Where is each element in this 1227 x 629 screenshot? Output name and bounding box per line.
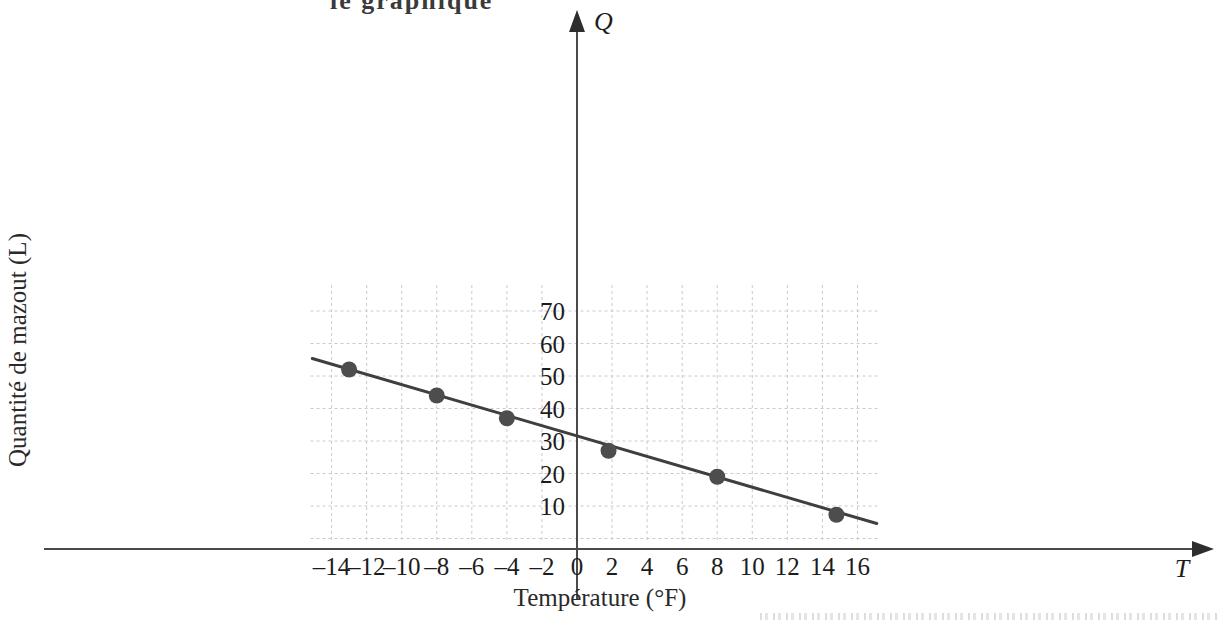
data-point [499,410,515,426]
y-tick-label: 20 [540,461,565,488]
x-tick-label: 2 [606,553,619,580]
data-point [429,388,445,404]
x-tick-label: 0 [571,553,584,580]
y-axis-caption: Quantité de mazout (L) [4,233,32,467]
chart-canvas: le graphique –14–12–10–8–6–4–20246810121… [0,0,1227,629]
scatter-plot-svg: –14–12–10–8–6–4–202468101214161020304050… [0,0,1227,629]
data-point [828,507,844,523]
x-tick-label: 14 [810,553,836,580]
x-axis-arrowhead [1192,541,1214,557]
x-tick-label: –8 [423,553,449,580]
x-tick-label: –4 [493,553,520,580]
x-axis-caption: Température (°F) [514,584,687,612]
x-tick-label: 8 [711,553,724,580]
x-tick-label: –10 [382,553,421,580]
x-tick-label: –14 [312,553,351,580]
data-point [341,362,357,378]
y-axis-arrowhead [569,10,585,32]
data-point [601,443,617,459]
gridlines-group [311,285,881,542]
data-points-group [341,362,844,523]
y-tick-label: 70 [540,298,565,325]
x-tick-label: –2 [528,553,554,580]
y-tick-label: 40 [540,396,565,423]
x-tick-label: 6 [676,553,689,580]
x-axis-symbol: T [1175,554,1191,583]
y-axis-symbol: Q [594,7,613,36]
x-tick-label: 16 [845,553,870,580]
y-tick-label: 50 [540,363,565,390]
x-tick-label: 12 [775,553,800,580]
axis-symbols-group: QT [594,7,1191,583]
y-tick-label: 10 [540,493,565,520]
x-tick-label: 4 [641,553,654,580]
x-tick-label: –12 [347,553,386,580]
data-point [709,469,725,485]
axes-group [44,10,1214,600]
x-tick-label: 10 [740,553,765,580]
x-tick-label: –6 [458,553,484,580]
page-bottom-artifact [760,613,1220,620]
y-tick-label: 60 [540,331,565,358]
